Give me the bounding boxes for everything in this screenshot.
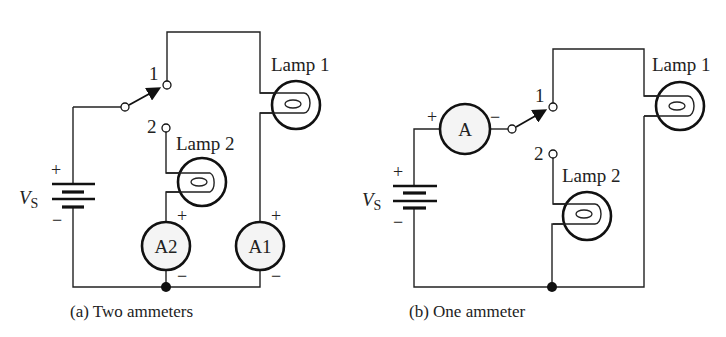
source-label: VS — [362, 189, 381, 213]
lamp2-icon — [166, 158, 226, 206]
switch-pos2-label: 2 — [534, 143, 544, 164]
junction-dot — [161, 282, 171, 292]
battery-plus: + — [393, 162, 403, 182]
battery-icon — [52, 184, 95, 207]
battery-minus: − — [393, 212, 403, 232]
lamp1-label: Lamp 1 — [271, 54, 330, 75]
ammeter-minus: − — [490, 107, 500, 127]
switch-icon[interactable] — [121, 81, 171, 132]
svg-text:A: A — [458, 119, 472, 140]
a2-minus: − — [177, 266, 187, 286]
ammeter-a1: A1 — [236, 222, 284, 270]
source-label: VS — [19, 187, 38, 211]
battery-icon — [393, 186, 437, 208]
wire-left-upper — [414, 129, 440, 186]
battery-plus: + — [51, 160, 61, 180]
switch-pos2-label: 2 — [147, 116, 157, 137]
lamp2-label: Lamp 2 — [176, 133, 235, 154]
svg-text:A1: A1 — [248, 236, 271, 257]
lamp2-label: Lamp 2 — [562, 165, 621, 186]
junction-dot — [547, 282, 557, 292]
wire-top — [553, 49, 664, 103]
switch-pos1-label: 1 — [535, 85, 545, 106]
lamp1-icon — [260, 81, 320, 129]
lamp1-label: Lamp 1 — [652, 54, 711, 75]
switch-icon[interactable] — [508, 103, 557, 158]
circuit-diagrams: + − VS 1 2 Lamp 1 Lamp 2 A2 — [0, 0, 726, 337]
battery-minus: − — [52, 210, 62, 230]
caption-b: (b) One ammeter — [409, 302, 525, 321]
svg-text:A2: A2 — [154, 236, 177, 257]
lamp2-icon — [553, 192, 611, 240]
caption-a: (a) Two ammeters — [70, 302, 193, 321]
lamp1-icon — [644, 82, 704, 130]
ammeter-plus: + — [427, 107, 437, 127]
ammeter-a: A — [440, 104, 490, 154]
ammeter-a2: A2 — [142, 222, 190, 270]
wire-top — [167, 32, 280, 93]
circuit-a: + − VS 1 2 Lamp 1 Lamp 2 A2 — [19, 32, 330, 321]
a2-plus: + — [177, 206, 187, 226]
a1-minus: − — [271, 266, 281, 286]
switch-pos1-label: 1 — [149, 63, 159, 84]
circuit-b: + − VS A + − 1 2 Lamp 1 — [362, 49, 711, 321]
a1-plus: + — [271, 206, 281, 226]
